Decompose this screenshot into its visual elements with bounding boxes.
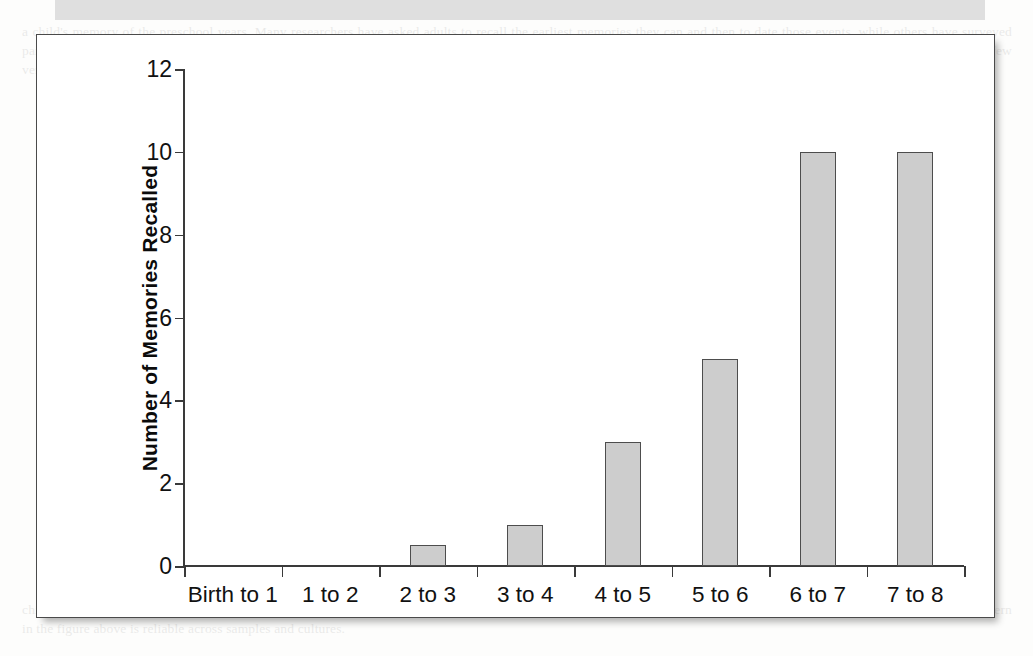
y-axis-tick-mark (175, 152, 184, 154)
x-axis-tick-mark (282, 566, 284, 577)
y-axis-tick-label: 10 (146, 138, 172, 165)
y-axis-tick-mark (175, 400, 184, 402)
x-axis-tick-label: 1 to 2 (302, 582, 358, 608)
x-axis-tick-mark (672, 566, 674, 577)
y-axis-tick-mark (175, 318, 184, 320)
bar (605, 442, 641, 566)
x-axis-tick-mark (574, 566, 576, 577)
x-axis-tick-mark (477, 566, 479, 577)
x-axis-tick-label: 3 to 4 (497, 582, 553, 608)
y-axis-tick-mark (175, 69, 184, 71)
y-axis-tick-mark (175, 566, 184, 568)
x-axis-tick-mark (867, 566, 869, 577)
x-axis-tick-label: Birth to 1 (188, 582, 278, 608)
y-axis-tick-label: 2 (159, 470, 172, 497)
y-axis-tick-mark (175, 235, 184, 237)
bar (897, 152, 933, 566)
y-axis-tick-label: 6 (159, 304, 172, 331)
bar (410, 545, 446, 566)
x-axis-tick-label: 7 to 8 (887, 582, 943, 608)
bar (702, 359, 738, 566)
x-axis-tick-label: 4 to 5 (595, 582, 651, 608)
x-axis-tick-label: 6 to 7 (790, 582, 846, 608)
x-axis-tick-label: 5 to 6 (692, 582, 748, 608)
page-top-band (55, 0, 985, 20)
chart-panel: Number of Memories Recalled 024681012 Bi… (36, 34, 995, 618)
y-axis-tick-label: 0 (159, 553, 172, 580)
x-axis-tick-mark (379, 566, 381, 577)
bar (507, 525, 543, 566)
y-axis-tick-mark (175, 483, 184, 485)
x-axis-tick-mark (964, 566, 966, 577)
x-axis-tick-label: 2 to 3 (400, 582, 456, 608)
plot-area: 024681012 Birth to 11 to 22 to 33 to 44 … (184, 69, 964, 566)
y-axis-tick-label: 8 (159, 221, 172, 248)
y-axis-tick-label: 4 (159, 387, 172, 414)
y-axis-tick-label: 12 (146, 56, 172, 83)
bar (800, 152, 836, 566)
x-axis-tick-mark (769, 566, 771, 577)
x-axis-tick-mark (184, 566, 186, 577)
